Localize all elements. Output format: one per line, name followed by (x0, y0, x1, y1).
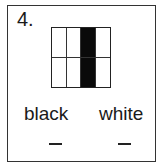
grid-cell (96, 28, 111, 58)
answer-blank-white[interactable] (118, 143, 131, 145)
answer-blank-black[interactable] (49, 143, 62, 145)
grid-cell (67, 28, 82, 58)
label-white: white (99, 104, 143, 124)
shaded-grid (51, 27, 111, 88)
grid-cell (67, 58, 82, 88)
grid-cell-shaded (81, 58, 96, 88)
grid-cell (52, 58, 67, 88)
question-number: 4. (17, 9, 34, 29)
grid-cell (52, 28, 67, 58)
grid-cell-shaded (81, 28, 96, 58)
label-black: black (24, 104, 68, 124)
grid-cell (96, 58, 111, 88)
